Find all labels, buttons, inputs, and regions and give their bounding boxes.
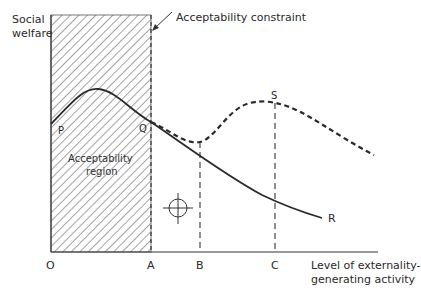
curve-qs-dashed: [151, 101, 374, 155]
tick-b-label: B: [196, 259, 204, 272]
constraint-arrow: [155, 12, 172, 28]
crosshair-icon: [163, 193, 193, 224]
constraint-label: Acceptability constraint: [176, 11, 306, 24]
point-s-label: S: [271, 89, 277, 102]
tick-a-label: A: [147, 259, 155, 272]
x-axis-label-line2: generating activity: [311, 273, 415, 286]
acceptability-region: [51, 15, 151, 252]
region-label-line2: region: [86, 166, 118, 178]
point-r-label: R: [328, 212, 336, 225]
tick-o-label: O: [46, 259, 55, 272]
region-label-line1: Acceptability: [68, 153, 133, 165]
y-axis-label-line1: Social: [12, 13, 45, 26]
x-axis-label-line1: Level of externality-: [311, 259, 421, 272]
point-p-label: P: [58, 124, 64, 137]
y-axis-label-line2: welfare: [12, 27, 52, 40]
tick-c-label: C: [271, 259, 279, 272]
point-q-label: Q: [139, 122, 147, 135]
